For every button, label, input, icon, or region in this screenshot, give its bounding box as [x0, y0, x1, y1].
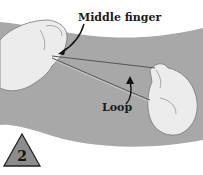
illustration: Middle finger Loop 2: [0, 0, 203, 175]
background-band: [0, 0, 203, 175]
step-number: 2: [15, 148, 29, 164]
loop-label: Loop: [102, 101, 132, 114]
middle-finger-label: Middle finger: [78, 11, 161, 24]
